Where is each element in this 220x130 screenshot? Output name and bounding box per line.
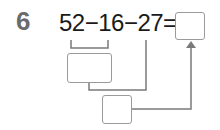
step2-box[interactable] <box>102 95 132 124</box>
step1-box[interactable] <box>67 53 112 83</box>
connector-step2-answer <box>131 47 191 109</box>
bracket-52-16 <box>71 40 108 48</box>
answer-box[interactable] <box>175 12 205 40</box>
arrow-up-icon <box>186 41 196 48</box>
